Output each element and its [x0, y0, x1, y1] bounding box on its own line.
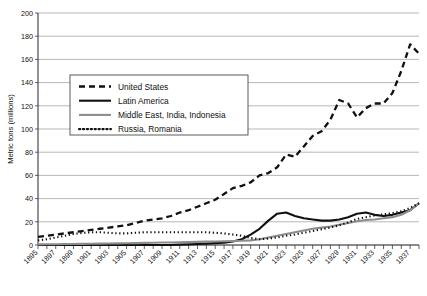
x-axis-tick-label: 1899 — [57, 248, 75, 266]
x-axis-tick-label: 1933 — [358, 248, 376, 266]
y-axis-tick-label: 80 — [25, 148, 33, 157]
x-axis-tick-label: 1925 — [287, 248, 305, 266]
y-axis-tick-label: 160 — [21, 55, 33, 64]
chart-container: 0204060801001201401601802001895189718991… — [0, 0, 427, 296]
x-axis-tick-label: 1897 — [39, 248, 57, 266]
legend-label-2: Middle East, India, Indonesia — [118, 110, 226, 120]
y-axis-tick-label: 60 — [25, 171, 33, 180]
y-axis-tick-label: 140 — [21, 78, 33, 87]
x-axis-tick-label: 1937 — [394, 248, 412, 266]
y-axis-tick-label: 40 — [25, 194, 33, 203]
x-axis-tick-label: 1931 — [341, 248, 359, 266]
legend-label-1: Latin America — [118, 96, 169, 106]
x-axis-tick-label: 1909 — [146, 248, 164, 266]
y-axis-tick-label: 20 — [25, 218, 33, 227]
x-axis-tick-label: 1913 — [181, 248, 199, 266]
x-axis-tick-label: 1903 — [92, 248, 110, 266]
series-line-0 — [38, 44, 419, 237]
x-axis-tick-label: 1917 — [217, 248, 235, 266]
x-axis-tick-label: 1907 — [128, 248, 146, 266]
legend-label-0: United States — [118, 82, 168, 92]
x-axis-tick-label: 1927 — [305, 248, 323, 266]
x-axis-tick-label: 1935 — [376, 248, 394, 266]
x-axis-tick-label: 1911 — [164, 248, 181, 265]
x-axis-tick-label: 1915 — [199, 248, 217, 266]
y-axis-tick-label: 180 — [21, 32, 33, 41]
y-axis-tick-label: 200 — [21, 9, 33, 18]
x-axis-tick-label: 1921 — [252, 248, 270, 266]
x-axis-tick-label: 1923 — [270, 248, 288, 266]
y-axis-tick-label: 120 — [21, 102, 33, 111]
line-chart: 0204060801001201401601802001895189718991… — [0, 0, 427, 296]
series-line-1 — [38, 203, 419, 245]
x-axis-tick-label: 1895 — [22, 248, 40, 266]
x-axis-tick-label: 1901 — [75, 248, 93, 266]
x-axis-tick-label: 1905 — [110, 248, 128, 266]
x-axis-tick-label: 1919 — [234, 248, 252, 266]
series-line-2 — [38, 203, 419, 244]
x-axis-tick-label: 1929 — [323, 248, 341, 266]
y-axis-tick-label: 100 — [21, 125, 33, 134]
y-axis-title: Metric tons (millions) — [6, 94, 15, 164]
legend-label-3: Russia, Romania — [118, 124, 182, 134]
